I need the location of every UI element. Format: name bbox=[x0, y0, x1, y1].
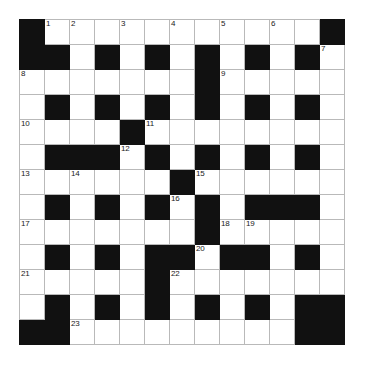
crossword-cell[interactable]: 5 bbox=[220, 20, 245, 45]
crossword-cell[interactable] bbox=[70, 95, 95, 120]
crossword-cell[interactable] bbox=[220, 120, 245, 145]
crossword-cell[interactable]: 18 bbox=[220, 220, 245, 245]
crossword-cell[interactable] bbox=[145, 220, 170, 245]
crossword-cell[interactable]: 19 bbox=[245, 220, 270, 245]
crossword-cell[interactable] bbox=[245, 270, 270, 295]
crossword-cell[interactable]: 14 bbox=[70, 170, 95, 195]
crossword-cell[interactable]: 20 bbox=[195, 245, 220, 270]
crossword-cell[interactable] bbox=[170, 295, 195, 320]
crossword-cell[interactable]: 22 bbox=[170, 270, 195, 295]
crossword-cell[interactable] bbox=[45, 170, 70, 195]
crossword-cell[interactable] bbox=[320, 95, 345, 120]
crossword-cell[interactable] bbox=[70, 120, 95, 145]
crossword-cell[interactable] bbox=[270, 270, 295, 295]
crossword-cell[interactable] bbox=[320, 170, 345, 195]
crossword-cell[interactable]: 23 bbox=[70, 320, 95, 345]
crossword-cell[interactable] bbox=[195, 270, 220, 295]
crossword-cell[interactable] bbox=[320, 145, 345, 170]
crossword-cell[interactable] bbox=[120, 270, 145, 295]
crossword-cell[interactable] bbox=[170, 120, 195, 145]
crossword-cell[interactable] bbox=[270, 320, 295, 345]
crossword-cell[interactable] bbox=[220, 45, 245, 70]
crossword-cell[interactable] bbox=[120, 245, 145, 270]
crossword-cell[interactable] bbox=[95, 20, 120, 45]
crossword-cell[interactable] bbox=[120, 295, 145, 320]
crossword-cell[interactable] bbox=[320, 70, 345, 95]
crossword-cell[interactable] bbox=[220, 320, 245, 345]
crossword-cell[interactable] bbox=[70, 220, 95, 245]
crossword-cell[interactable]: 11 bbox=[145, 120, 170, 145]
crossword-cell[interactable] bbox=[95, 170, 120, 195]
crossword-cell[interactable]: 15 bbox=[195, 170, 220, 195]
crossword-cell[interactable]: 17 bbox=[20, 220, 45, 245]
crossword-cell[interactable] bbox=[120, 195, 145, 220]
crossword-cell[interactable] bbox=[145, 320, 170, 345]
crossword-cell[interactable] bbox=[145, 170, 170, 195]
crossword-cell[interactable] bbox=[20, 295, 45, 320]
crossword-cell[interactable] bbox=[45, 220, 70, 245]
crossword-cell[interactable] bbox=[245, 70, 270, 95]
crossword-cell[interactable]: 7 bbox=[320, 45, 345, 70]
crossword-cell[interactable] bbox=[70, 245, 95, 270]
crossword-cell[interactable]: 10 bbox=[20, 120, 45, 145]
crossword-cell[interactable] bbox=[120, 95, 145, 120]
crossword-cell[interactable]: 1 bbox=[45, 20, 70, 45]
crossword-cell[interactable] bbox=[320, 120, 345, 145]
crossword-cell[interactable] bbox=[270, 245, 295, 270]
crossword-cell[interactable] bbox=[20, 195, 45, 220]
crossword-cell[interactable] bbox=[220, 295, 245, 320]
crossword-cell[interactable] bbox=[270, 145, 295, 170]
crossword-cell[interactable] bbox=[70, 270, 95, 295]
crossword-cell[interactable]: 13 bbox=[20, 170, 45, 195]
crossword-cell[interactable]: 9 bbox=[220, 70, 245, 95]
crossword-cell[interactable] bbox=[70, 295, 95, 320]
crossword-cell[interactable]: 8 bbox=[20, 70, 45, 95]
crossword-cell[interactable] bbox=[270, 45, 295, 70]
crossword-cell[interactable] bbox=[270, 70, 295, 95]
crossword-cell[interactable] bbox=[220, 145, 245, 170]
crossword-cell[interactable] bbox=[220, 170, 245, 195]
crossword-cell[interactable] bbox=[245, 320, 270, 345]
crossword-cell[interactable] bbox=[220, 195, 245, 220]
crossword-cell[interactable]: 2 bbox=[70, 20, 95, 45]
crossword-cell[interactable] bbox=[270, 95, 295, 120]
crossword-cell[interactable] bbox=[95, 120, 120, 145]
crossword-cell[interactable]: 3 bbox=[120, 20, 145, 45]
crossword-cell[interactable] bbox=[195, 120, 220, 145]
crossword-cell[interactable] bbox=[20, 245, 45, 270]
crossword-cell[interactable] bbox=[95, 320, 120, 345]
crossword-cell[interactable] bbox=[170, 145, 195, 170]
crossword-cell[interactable] bbox=[145, 20, 170, 45]
crossword-cell[interactable] bbox=[95, 70, 120, 95]
crossword-cell[interactable] bbox=[295, 170, 320, 195]
crossword-cell[interactable]: 12 bbox=[120, 145, 145, 170]
crossword-cell[interactable] bbox=[170, 320, 195, 345]
crossword-cell[interactable] bbox=[170, 45, 195, 70]
crossword-cell[interactable] bbox=[295, 70, 320, 95]
crossword-cell[interactable] bbox=[195, 20, 220, 45]
crossword-cell[interactable] bbox=[220, 270, 245, 295]
crossword-cell[interactable] bbox=[245, 120, 270, 145]
crossword-cell[interactable] bbox=[295, 270, 320, 295]
crossword-cell[interactable] bbox=[170, 95, 195, 120]
crossword-cell[interactable] bbox=[45, 120, 70, 145]
crossword-cell[interactable] bbox=[295, 120, 320, 145]
crossword-cell[interactable] bbox=[120, 170, 145, 195]
crossword-cell[interactable] bbox=[320, 245, 345, 270]
crossword-cell[interactable] bbox=[45, 70, 70, 95]
crossword-cell[interactable] bbox=[295, 20, 320, 45]
crossword-cell[interactable] bbox=[120, 220, 145, 245]
crossword-cell[interactable] bbox=[70, 70, 95, 95]
crossword-cell[interactable]: 16 bbox=[170, 195, 195, 220]
crossword-cell[interactable]: 6 bbox=[270, 20, 295, 45]
crossword-cell[interactable] bbox=[70, 195, 95, 220]
crossword-cell[interactable] bbox=[320, 270, 345, 295]
crossword-cell[interactable] bbox=[170, 220, 195, 245]
crossword-cell[interactable] bbox=[20, 145, 45, 170]
crossword-cell[interactable] bbox=[120, 70, 145, 95]
crossword-cell[interactable] bbox=[245, 170, 270, 195]
crossword-cell[interactable] bbox=[120, 45, 145, 70]
crossword-cell[interactable] bbox=[95, 270, 120, 295]
crossword-cell[interactable] bbox=[45, 270, 70, 295]
crossword-cell[interactable] bbox=[270, 295, 295, 320]
